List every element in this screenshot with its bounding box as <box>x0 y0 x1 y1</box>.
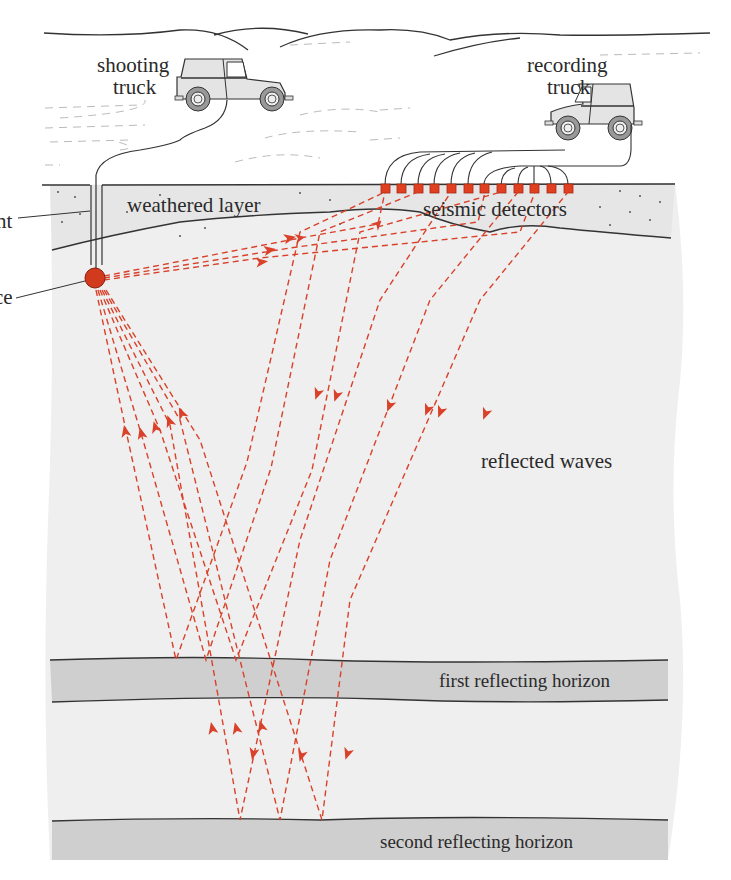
subsurface-background <box>45 183 683 860</box>
second-reflecting-horizon <box>52 818 668 861</box>
seismic-reflection-diagram: shooting truck recording truck weathered… <box>0 0 731 880</box>
shooting-truck <box>175 59 293 111</box>
first-horizon-label: first reflecting horizon <box>439 670 610 691</box>
recording-truck-label-line1: recording <box>527 53 608 77</box>
shooting-truck-label-line2: truck <box>113 75 157 99</box>
weathered-layer-label: weathered layer <box>127 193 261 217</box>
source-charge <box>85 268 105 288</box>
detector-cables <box>385 125 631 185</box>
shooting-truck-label-line1: shooting <box>97 53 170 77</box>
reflected-waves-label: reflected waves <box>481 449 612 473</box>
terrain-lines <box>44 28 710 56</box>
recording-truck-label-line2: truck <box>547 75 591 99</box>
source-label-partial: ce <box>0 285 13 309</box>
second-horizon-label: second reflecting horizon <box>380 831 574 852</box>
seismic-detectors-label: seismic detectors <box>423 197 567 221</box>
cement-label-partial: nt <box>0 209 13 233</box>
